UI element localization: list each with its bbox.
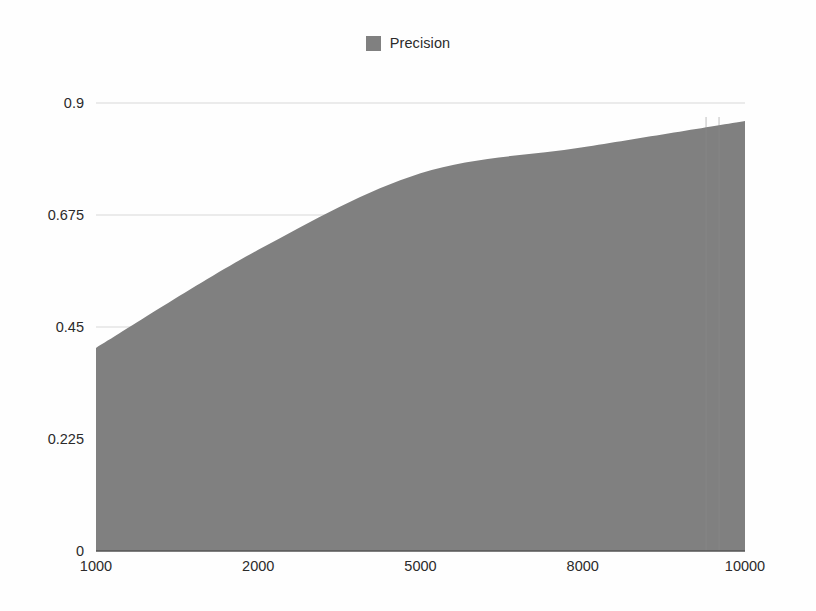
- y-tick-label: 0.45: [56, 319, 84, 335]
- precision-area-chart: Precision 00.2250.450.6750.9 10002000500…: [0, 0, 816, 611]
- x-axis-tick-labels: 100020005000800010000: [0, 558, 816, 582]
- series-area-precision: [96, 121, 745, 551]
- y-tick-label: 0: [76, 543, 84, 559]
- x-tick-label: 2000: [242, 558, 274, 574]
- plot-canvas: [0, 0, 816, 611]
- y-tick-label: 0.225: [48, 431, 84, 447]
- y-tick-label: 0.9: [64, 95, 84, 111]
- plot-area: [0, 0, 816, 611]
- x-tick-label: 8000: [567, 558, 599, 574]
- y-tick-label: 0.675: [48, 207, 84, 223]
- x-tick-label: 1000: [80, 558, 112, 574]
- y-axis-tick-labels: 00.2250.450.6750.9: [0, 0, 84, 611]
- x-tick-label: 10000: [725, 558, 765, 574]
- x-tick-label: 5000: [404, 558, 436, 574]
